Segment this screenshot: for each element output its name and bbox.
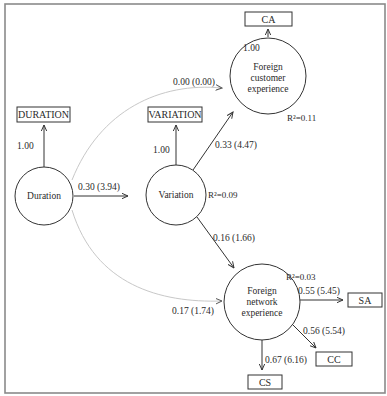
loading-label-duration: 1.00 [17, 141, 34, 151]
path-label-duration-fne: 0.17 (1.74) [172, 306, 214, 317]
loading-label-ca: 1.00 [243, 43, 260, 53]
svg-text:CS: CS [259, 377, 271, 388]
svg-text:experience: experience [247, 84, 288, 94]
svg-text:CC: CC [327, 354, 341, 365]
loading-label-variation: 1.00 [153, 145, 170, 155]
loading-label-sa: 0.55 (5.45) [298, 286, 340, 297]
path-duration-to-fne [72, 210, 222, 301]
svg-text:experience: experience [241, 308, 282, 318]
r2-fne: R²=0.03 [286, 272, 316, 282]
svg-text:VARIATION: VARIATION [148, 109, 201, 120]
path-diagram: Duration Variation R²=0.09 Foreign custo… [0, 0, 387, 396]
path-duration-to-fce [72, 87, 222, 180]
path-label-duration-fce: 0.00 (0.00) [173, 77, 215, 88]
indicator-ca: CA [245, 12, 292, 26]
svg-text:Variation: Variation [159, 190, 194, 200]
path-label-variation-fne: 0.16 (1.66) [213, 233, 255, 244]
svg-text:DURATION: DURATION [18, 109, 69, 120]
indicator-cc: CC [316, 352, 352, 366]
node-duration: Duration [15, 167, 73, 225]
svg-text:customer: customer [251, 73, 287, 83]
path-label-duration-variation: 0.30 (3.94) [78, 182, 120, 193]
svg-text:SA: SA [359, 295, 373, 306]
svg-text:Foreign: Foreign [253, 62, 283, 72]
path-label-variation-fce: 0.33 (4.47) [215, 140, 257, 151]
indicator-sa: SA [348, 293, 382, 307]
r2-fce: R²=0.11 [287, 113, 316, 123]
svg-text:network: network [246, 297, 277, 307]
r2-variation: R²=0.09 [208, 190, 238, 200]
node-variation: Variation R²=0.09 [146, 165, 238, 225]
svg-text:CA: CA [262, 14, 277, 25]
svg-text:Duration: Duration [27, 191, 61, 201]
loading-label-cs: 0.67 (6.16) [265, 355, 307, 366]
indicator-variation: VARIATION [148, 107, 202, 122]
indicator-duration: DURATION [17, 107, 70, 122]
loading-label-cc: 0.56 (5.54) [303, 326, 345, 337]
indicator-cs: CS [248, 375, 282, 389]
svg-text:Foreign: Foreign [247, 286, 277, 296]
